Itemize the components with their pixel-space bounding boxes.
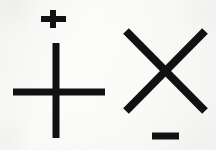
- plus-sign: [41, 10, 66, 28]
- multiplication-x-sign: [126, 31, 205, 111]
- cross-plus-sign: [13, 43, 105, 138]
- symbol-canvas: [0, 0, 216, 150]
- ink-layer: [0, 0, 216, 150]
